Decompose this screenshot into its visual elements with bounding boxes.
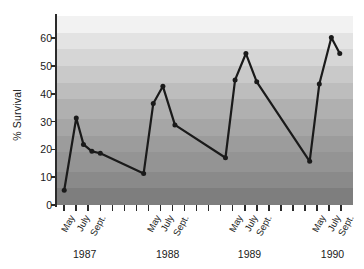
x-axis-tick: [148, 205, 150, 211]
y-axis-tick-label: 30: [18, 116, 52, 128]
x-axis-tick: [184, 205, 186, 211]
y-axis-tick-label: 60: [18, 32, 52, 44]
data-point-marker: [223, 155, 228, 160]
x-axis-tick: [208, 205, 210, 211]
x-axis-month-label: May: [58, 213, 76, 234]
x-axis-tick: [244, 205, 246, 211]
y-axis-tick-labels: 0102030405060: [12, 0, 52, 269]
data-point-marker: [62, 188, 67, 193]
x-axis-tick: [136, 205, 138, 211]
survival-chart-figure: % Survival 0102030405060 MayJulySept.May…: [0, 0, 364, 269]
data-point-marker: [307, 159, 312, 164]
data-point-marker: [329, 35, 334, 40]
x-axis-tick: [304, 205, 306, 211]
data-point-marker: [317, 82, 322, 87]
data-point-marker: [151, 101, 156, 106]
data-point-marker: [233, 77, 238, 82]
data-point-marker: [98, 151, 103, 156]
data-point-marker: [172, 122, 177, 127]
x-axis-tick: [316, 205, 318, 211]
x-axis-tick: [196, 205, 198, 211]
data-point-marker: [89, 149, 94, 154]
y-axis-title: % Survival: [8, 60, 26, 170]
data-point-marker: [141, 171, 146, 176]
x-axis-year-label: 1988: [156, 248, 179, 260]
y-axis-title-text: % Survival: [11, 89, 23, 141]
x-axis-tick: [292, 205, 294, 211]
x-axis-year-label: 1987: [73, 248, 96, 260]
x-axis-tick: [124, 205, 126, 211]
data-point-marker: [337, 51, 342, 56]
y-axis-tick-label: 10: [18, 171, 52, 183]
x-axis-tick: [75, 205, 77, 211]
y-axis-tick-label: 40: [18, 88, 52, 100]
x-axis-tick: [328, 205, 330, 211]
x-axis-tick: [87, 205, 89, 211]
y-axis-tick-label: 20: [18, 143, 52, 155]
y-axis-tick: [51, 65, 56, 67]
data-point-marker: [81, 142, 86, 147]
series-polyline: [64, 37, 340, 190]
x-axis-year-label: 1989: [238, 248, 261, 260]
x-axis-tick: [63, 205, 65, 211]
x-axis-tick: [112, 205, 114, 211]
y-axis-tick: [51, 149, 56, 151]
x-axis-tick: [280, 205, 282, 211]
x-axis-tick: [220, 205, 222, 211]
y-axis-tick: [51, 176, 56, 178]
x-axis-tick: [268, 205, 270, 211]
series-line-survival: [57, 16, 353, 205]
data-point-marker: [74, 116, 79, 121]
plot-area: [57, 16, 353, 205]
data-point-marker: [243, 51, 248, 56]
y-axis-tick: [51, 37, 56, 39]
data-point-marker: [160, 84, 165, 89]
x-axis-month-label: May: [227, 213, 245, 234]
x-axis-month-label: May: [310, 213, 328, 234]
x-axis-tick: [100, 205, 102, 211]
y-axis-tick: [51, 204, 56, 206]
x-axis-tick: [172, 205, 174, 211]
y-axis-tick-label: 50: [18, 60, 52, 72]
y-axis-tick: [51, 121, 56, 123]
data-point-marker: [254, 79, 259, 84]
x-axis-tick: [232, 205, 234, 211]
x-axis-tick: [340, 205, 342, 211]
y-axis-tick-label: 0: [18, 199, 52, 211]
x-axis-tick: [160, 205, 162, 211]
y-axis-tick: [51, 93, 56, 95]
x-axis-tick: [256, 205, 258, 211]
x-axis-year-label: 1990: [321, 248, 344, 260]
